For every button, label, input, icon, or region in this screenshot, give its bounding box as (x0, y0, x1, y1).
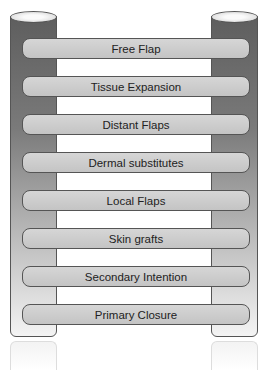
left-pillar-cap (10, 11, 57, 23)
rung-free-flap: Free Flap (22, 38, 250, 59)
rung-primary-closure: Primary Closure (22, 304, 250, 325)
rung-skin-grafts: Skin grafts (22, 228, 250, 249)
right-pillar (211, 16, 258, 337)
rung-local-flaps: Local Flaps (22, 190, 250, 211)
rung-tissue-expansion: Tissue Expansion (22, 76, 250, 97)
left-pillar (10, 16, 57, 337)
right-pillar-cap (211, 11, 258, 23)
rung-distant-flaps: Distant Flaps (22, 114, 250, 135)
left-pillar-reflection (10, 341, 57, 370)
rung-secondary-intention: Secondary Intention (22, 266, 250, 287)
right-pillar-reflection (211, 341, 258, 370)
rung-dermal-substitutes: Dermal substitutes (22, 152, 250, 173)
